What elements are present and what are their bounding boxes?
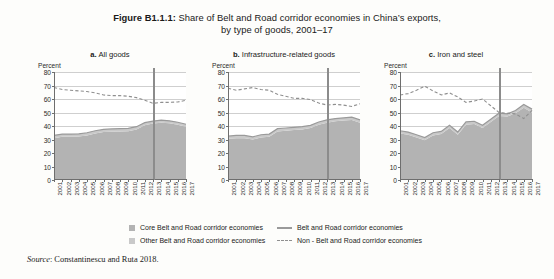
x-axis-tick-label: 2004 [255,182,262,195]
x-axis-tick-mark [417,179,418,182]
legend-column-lines: Belt and Road corridor economies Non - B… [277,222,422,248]
x-axis-tick-label: 2013 [501,182,508,195]
y-axis-tick-label: 20 [44,150,51,157]
x-axis-tick-label: 2015 [518,182,525,195]
x-axis-tick-mark [433,179,434,182]
x-axis-tick-label: 2001 [230,182,237,195]
y-axis-tick-label: 30 [44,136,51,143]
plot-area-c: 01020304050607080 [400,72,532,180]
y-axis-tick-label: 80 [390,69,397,76]
panel-name-c: Iron and steel [437,50,483,59]
plot-area-a: 01020304050607080 [54,72,186,180]
x-axis-tick-mark [286,179,287,182]
legend-label-other: Other Belt and Road corridor economies [140,236,265,245]
legend-item-bri: Belt and Road corridor economies [277,222,422,233]
source-text: : Constantinescu and Ruta 2018. [50,255,159,264]
series-plot-svg [54,72,186,180]
figure-title-line1: Share of Belt and Road corridor economie… [178,12,440,23]
x-axis-tick-mark [120,179,121,182]
x-axis-tick-mark [450,179,451,182]
y-axis-tick-label: 20 [218,150,225,157]
x-axis-tick-label: 2015 [172,182,179,195]
x-axis-labels-b: 2001200220032004200520062007200820092010… [228,182,360,216]
x-axis-tick-mark [104,179,105,182]
x-axis-tick-mark [425,179,426,182]
x-axis-tick-label: 2014 [164,182,171,195]
x-axis-tick-label: 2014 [510,182,517,195]
panel-title-a: a. All goods [22,50,198,59]
x-axis-tick-label: 2004 [427,182,434,195]
x-axis-tick-mark [491,179,492,182]
y-axis-tick-label: 30 [218,136,225,143]
y-axis-tick-label: 10 [44,163,51,170]
x-axis-tick-label: 2004 [81,182,88,195]
y-axis-tick-label: 50 [218,109,225,116]
y-axis-tick-label: 0 [221,177,225,184]
legend-item-core: Core Belt and Road corridor economies [129,222,265,233]
x-axis-tick-label: 2005 [89,182,96,195]
legend-column-areas: Core Belt and Road corridor economies Ot… [129,222,265,248]
x-axis-tick-label: 2006 [272,182,279,195]
x-axis-tick-mark [245,179,246,182]
x-axis-tick-label: 2014 [338,182,345,195]
x-axis-tick-label: 2013 [155,182,162,195]
x-axis-tick-mark [483,179,484,182]
x-axis-tick-label: 2009 [468,182,475,195]
x-axis-tick-mark [161,179,162,182]
y-axis-tick-label: 60 [44,96,51,103]
source-prefix: Source [27,255,50,264]
panel-infrastructure-goods: b. Infrastructure-related goods Percent … [196,50,372,218]
legend-label-nonbri: Non - Belt and Road corridor economies [297,236,422,245]
x-axis-tick-mark [302,179,303,182]
panel-letter-a: a. [90,50,96,59]
panel-title-c: c. Iron and steel [368,50,544,59]
y-axis-line [54,72,55,180]
x-axis-tick-label: 2013 [329,182,336,195]
y-axis-tick-label: 50 [44,109,51,116]
x-axis-tick-mark [87,179,88,182]
y-axis-tick-label: 0 [393,177,397,184]
source-note: Source: Constantinescu and Ruta 2018. [27,255,159,264]
y-axis-tick-label: 60 [218,96,225,103]
x-axis-tick-label: 2008 [288,182,295,195]
y-axis-tick-label: 70 [218,82,225,89]
x-axis-labels-c: 2001200220032004200520062007200820092010… [400,182,532,216]
x-axis-tick-mark [335,179,336,182]
x-axis-tick-label: 2016 [526,182,533,195]
y-axis-tick-label: 10 [390,163,397,170]
legend-swatch-dashed-line-icon [277,238,292,244]
x-axis-tick-label: 2006 [444,182,451,195]
area-series [400,108,532,180]
x-axis-tick-mark [441,179,442,182]
x-axis-tick-label: 2010 [305,182,312,195]
x-axis-tick-mark [532,179,533,182]
series-plot-svg [400,72,532,180]
panel-letter-c: c. [429,50,435,59]
legend-item-other: Other Belt and Road corridor economies [129,235,265,246]
figure-root: Figure B1.1.1: Share of Belt and Road co… [0,0,554,279]
chart-legend: Core Belt and Road corridor economies Ot… [0,222,554,248]
y-axis-tick-label: 0 [47,177,51,184]
x-axis-tick-mark [153,179,154,182]
figure-title: Figure B1.1.1: Share of Belt and Road co… [50,12,504,36]
x-axis-tick-mark [474,179,475,182]
x-axis-tick-mark [71,179,72,182]
x-axis-tick-label: 2003 [419,182,426,195]
panel-letter-b: b. [233,50,240,59]
y-axis-tick-label: 40 [218,123,225,130]
x-axis-tick-mark [360,179,361,182]
figure-title-line2: by type of goods, 2001–17 [221,24,333,35]
x-axis-tick-label: 2005 [435,182,442,195]
panel-name-b: Infrastructure-related goods [242,50,335,59]
x-axis-tick-label: 2003 [247,182,254,195]
x-axis-tick-mark [269,179,270,182]
y-axis-line [228,72,229,180]
x-axis-tick-mark [137,179,138,182]
legend-label-bri: Belt and Road corridor economies [297,223,403,232]
x-axis-tick-label: 2007 [280,182,287,195]
x-axis-tick-label: 2001 [56,182,63,195]
x-axis-tick-label: 2002 [239,182,246,195]
x-axis-tick-mark [128,179,129,182]
x-axis-tick-label: 2007 [452,182,459,195]
y-axis-tick-label: 70 [390,82,397,89]
